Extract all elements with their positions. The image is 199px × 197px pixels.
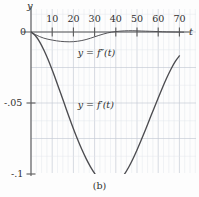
y-tick-label: -.05	[4, 98, 22, 108]
x-axis-label: t	[189, 27, 193, 37]
figure-caption: (b)	[0, 180, 199, 191]
origin-label: 0	[20, 27, 26, 37]
figure-panel: y t 0 10203040506070 -.05-.1 y = f″(t)y …	[0, 0, 199, 197]
x-tick-label: 10	[46, 14, 58, 24]
grid-minor	[31, 9, 196, 173]
x-tick-label: 20	[67, 14, 79, 24]
curve-label: y = f′(t)	[78, 100, 114, 110]
x-tick-label: 60	[152, 14, 164, 24]
y-axis-label: y	[27, 1, 33, 11]
x-tick-label: 50	[131, 14, 143, 24]
x-tick-label: 40	[110, 14, 122, 24]
x-tick-label: 70	[173, 14, 185, 24]
curve-label: y = f″(t)	[78, 48, 116, 58]
y-tick-label: -.1	[11, 169, 23, 179]
x-tick-label: 30	[89, 14, 101, 24]
